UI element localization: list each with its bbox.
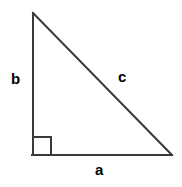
right-triangle-figure: b c a bbox=[0, 0, 182, 187]
side-label-b: b bbox=[11, 71, 20, 86]
triangle-svg bbox=[0, 0, 182, 187]
right-angle-square-icon bbox=[33, 137, 51, 155]
side-label-a: a bbox=[95, 162, 103, 177]
right-angle-marker bbox=[33, 137, 51, 155]
triangle-side-c-line bbox=[33, 13, 172, 155]
side-label-c: c bbox=[118, 69, 126, 84]
triangle-outline bbox=[32, 13, 172, 155]
